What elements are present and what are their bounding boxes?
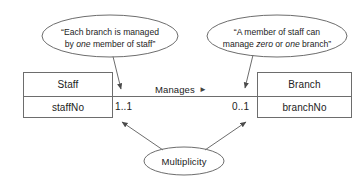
callout-right-line2: manage zero or one branch” bbox=[207, 39, 347, 51]
callout-pointer-left bbox=[113, 57, 121, 90]
callout-pointer-right bbox=[245, 55, 253, 88]
callout-left-emphasis-one: one bbox=[76, 39, 90, 49]
callout-right-text: “A member of staff can manage zero or on… bbox=[207, 27, 347, 50]
callout-right-emphasis-one: one bbox=[285, 39, 299, 49]
annotation-pointer-left bbox=[122, 122, 163, 150]
multiplicity-label-branch-side: 0..1 bbox=[232, 101, 249, 112]
callout-left-text: “Each branch is managed by one member of… bbox=[42, 27, 178, 50]
callout-right-line2-post: branch” bbox=[300, 39, 332, 49]
callout-left-line2-post: member of staff” bbox=[91, 39, 156, 49]
callout-left-line2: by one member of staff” bbox=[42, 39, 178, 51]
relationship-label-manages: Manages bbox=[155, 84, 195, 95]
entity-attribute-branchno: branchNo bbox=[257, 102, 352, 113]
entity-attribute-staffno: staffNo bbox=[23, 102, 113, 113]
diagram-canvas: “Each branch is managed by one member of… bbox=[0, 0, 364, 187]
callout-right-line2-mid: or bbox=[273, 39, 285, 49]
entity-title-staff: Staff bbox=[23, 79, 113, 90]
relationship-direction-triangle-icon: ► bbox=[199, 86, 207, 94]
annotation-label-multiplicity: Multiplicity bbox=[144, 156, 224, 167]
callout-right-line2-pre: manage bbox=[223, 39, 256, 49]
entity-title-branch: Branch bbox=[257, 79, 352, 90]
callout-left-line1: “Each branch is managed bbox=[42, 27, 178, 39]
multiplicity-label-staff-side: 1..1 bbox=[115, 101, 132, 112]
callout-right-emphasis-zero: zero bbox=[256, 39, 273, 49]
callout-right-line1: “A member of staff can bbox=[207, 27, 347, 39]
callout-left-line2-pre: by bbox=[65, 39, 76, 49]
annotation-pointer-right bbox=[205, 122, 246, 150]
